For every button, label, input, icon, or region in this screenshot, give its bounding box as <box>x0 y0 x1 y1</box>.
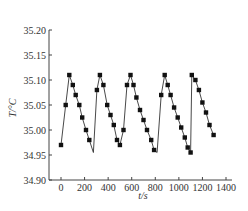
x-tick-label: 0 <box>59 182 64 193</box>
x-tick-label: 400 <box>101 182 116 193</box>
y-tick-label: 35.20 <box>24 25 47 36</box>
y-tick-label: 34.90 <box>24 175 47 186</box>
square-marker <box>64 103 68 107</box>
x-tick-label: 1400 <box>216 182 236 193</box>
square-marker <box>128 73 132 77</box>
square-marker <box>190 73 194 77</box>
square-marker <box>200 100 204 104</box>
square-marker <box>84 128 88 132</box>
square-marker <box>166 83 170 87</box>
square-marker <box>101 83 105 87</box>
temperature-line <box>61 75 214 153</box>
y-tick-label: 35.15 <box>24 50 47 61</box>
square-marker <box>159 93 163 97</box>
square-marker <box>95 88 99 92</box>
x-axis-label: t/s <box>138 190 148 201</box>
square-marker <box>80 115 84 119</box>
y-tick-label: 35.05 <box>24 100 47 111</box>
square-marker <box>138 108 142 112</box>
square-marker <box>141 118 145 122</box>
square-marker <box>98 73 102 77</box>
square-marker <box>176 115 180 119</box>
y-axis-label: T/°C <box>7 98 18 117</box>
square-marker <box>131 83 135 87</box>
temperature-chart: 34.9034.9535.0035.0535.1035.1535.20 0200… <box>0 0 248 211</box>
square-marker <box>207 123 211 127</box>
square-marker <box>77 103 81 107</box>
square-marker <box>211 133 215 137</box>
square-marker <box>59 143 63 147</box>
square-marker <box>193 78 197 82</box>
square-marker <box>112 123 116 127</box>
square-marker <box>74 93 78 97</box>
y-tick-label: 34.95 <box>24 150 47 161</box>
x-tick-label: 1000 <box>169 182 189 193</box>
square-marker <box>168 93 172 97</box>
square-marker <box>149 138 153 142</box>
y-tick-label: 35.10 <box>24 75 47 86</box>
square-marker <box>183 135 187 139</box>
square-marker <box>145 128 149 132</box>
square-marker <box>163 73 167 77</box>
square-marker <box>188 150 192 154</box>
y-axis-ticks: 34.9034.9535.0035.0535.1035.1535.20 <box>24 25 53 186</box>
square-marker <box>105 103 109 107</box>
x-tick-label: 600 <box>124 182 139 193</box>
square-marker <box>87 138 91 142</box>
square-marker <box>152 148 156 152</box>
square-marker <box>172 105 176 109</box>
x-tick-label: 200 <box>77 182 92 193</box>
square-marker <box>204 110 208 114</box>
square-marker <box>197 88 201 92</box>
square-marker <box>115 138 119 142</box>
square-marker <box>108 113 112 117</box>
temperature-markers <box>59 73 216 155</box>
square-marker <box>134 95 138 99</box>
x-tick-label: 800 <box>148 182 163 193</box>
square-marker <box>121 128 125 132</box>
square-marker <box>125 83 129 87</box>
y-tick-label: 35.00 <box>24 125 47 136</box>
axes <box>49 30 232 180</box>
square-marker <box>186 145 190 149</box>
square-marker <box>71 83 75 87</box>
square-marker <box>67 73 71 77</box>
square-marker <box>118 143 122 147</box>
square-marker <box>179 125 183 129</box>
x-tick-label: 1200 <box>192 182 212 193</box>
